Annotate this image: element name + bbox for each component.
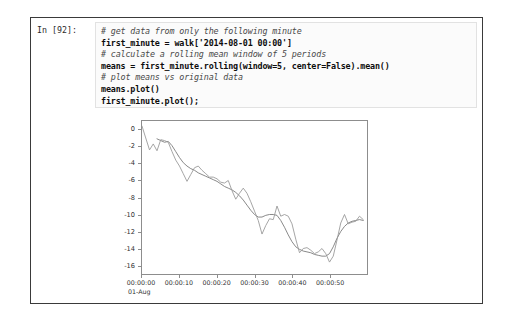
cell-output-row: 0-2-4-6-8-10-12-14-1600:00:0000:00:1000:… — [31, 113, 482, 303]
y-tick-mark — [138, 266, 141, 267]
code-line: first_minute = walk['2014-08-01 00:00'] — [101, 38, 471, 50]
x-tick-label: 00:00:50 — [316, 279, 344, 286]
code-line: means.plot() — [101, 84, 471, 96]
y-tick-label: -4 — [109, 159, 135, 167]
screenshot-root: In [92]: # get data from only the follow… — [0, 0, 508, 322]
x-tick-label: 00:00:10 — [165, 279, 193, 286]
code-line: # calculate a rolling mean window of 5 p… — [101, 49, 471, 61]
x-tick-mark — [292, 275, 293, 278]
y-tick-label: -8 — [109, 194, 135, 202]
y-tick-label: -6 — [109, 176, 135, 184]
code-line: first_minute.plot(); — [101, 96, 471, 108]
plot-lines — [142, 121, 367, 274]
code-line: # get data from only the following minut… — [101, 26, 471, 38]
x-tick-mark — [255, 275, 256, 278]
x-tick-mark — [141, 275, 142, 278]
notebook-cell: In [92]: # get data from only the follow… — [30, 17, 483, 304]
y-tick-mark — [138, 198, 141, 199]
x-tick-label: 00:00:30 — [240, 279, 268, 286]
x-tick-mark — [217, 275, 218, 278]
x-axis-date-label: 01-Aug — [128, 288, 150, 295]
cell-prompt: In [92]: — [31, 18, 95, 37]
y-tick-mark — [138, 180, 141, 181]
x-tick-label: 00:00:40 — [278, 279, 306, 286]
matplotlib-figure: 0-2-4-6-8-10-12-14-1600:00:0000:00:1000:… — [79, 113, 399, 303]
y-tick-label: -14 — [109, 245, 135, 253]
y-tick-mark — [138, 146, 141, 147]
x-tick-label: 00:00:00 — [127, 279, 155, 286]
y-tick-label: -2 — [109, 142, 135, 150]
y-tick-mark — [138, 215, 141, 216]
y-tick-label: -12 — [109, 228, 135, 236]
series-line-means — [157, 139, 363, 256]
y-tick-label: -16 — [109, 262, 135, 270]
code-line: means = first_minute.rolling(window=5, c… — [101, 61, 471, 73]
code-line: # plot means vs original data — [101, 72, 471, 84]
x-tick-label: 00:00:20 — [203, 279, 231, 286]
y-tick-mark — [138, 129, 141, 130]
y-tick-mark — [138, 163, 141, 164]
x-tick-mark — [330, 275, 331, 278]
x-tick-mark — [179, 275, 180, 278]
code-editor[interactable]: # get data from only the following minut… — [95, 22, 477, 108]
y-tick-label: -10 — [109, 211, 135, 219]
cell-input-row: In [92]: # get data from only the follow… — [31, 18, 482, 113]
series-line-first_minute — [142, 126, 363, 262]
y-tick-label: 0 — [109, 125, 135, 133]
y-tick-mark — [138, 249, 141, 250]
y-tick-mark — [138, 232, 141, 233]
plot-axes — [141, 120, 368, 275]
